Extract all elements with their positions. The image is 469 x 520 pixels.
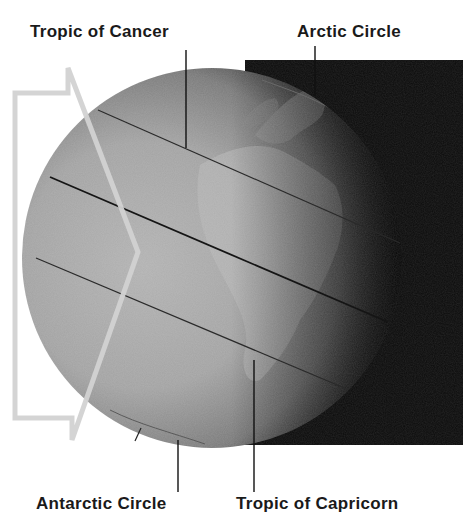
label-antarctic-circle: Antarctic Circle — [36, 494, 166, 514]
label-arctic-circle: Arctic Circle — [297, 22, 401, 42]
label-tropic-of-cancer: Tropic of Cancer — [30, 22, 169, 42]
globe — [22, 68, 402, 448]
earth-seasons-diagram — [0, 0, 469, 520]
label-tropic-of-capricorn: Tropic of Capricorn — [236, 494, 399, 514]
